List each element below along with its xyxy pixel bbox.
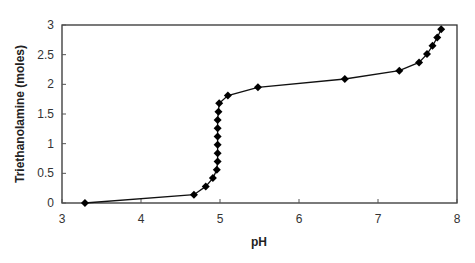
x-tick-label: 4 bbox=[138, 212, 145, 226]
x-tick-label: 8 bbox=[454, 212, 461, 226]
y-tick-label: 1 bbox=[47, 137, 54, 151]
y-tick-label: 2 bbox=[47, 77, 54, 91]
titration-chart: 345678 00.511.522.53 pH Triethanolamine … bbox=[0, 0, 475, 263]
y-tick-label: 1.5 bbox=[37, 107, 54, 121]
x-tick-label: 6 bbox=[296, 212, 303, 226]
x-tick-label: 7 bbox=[375, 212, 382, 226]
plot-area bbox=[62, 25, 457, 203]
x-tick-label: 5 bbox=[217, 212, 224, 226]
y-tick-label: 0 bbox=[47, 196, 54, 210]
y-tick-label: 2.5 bbox=[37, 48, 54, 62]
x-axis-title: pH bbox=[251, 235, 267, 249]
y-axis-title: Triethanolamine (moles) bbox=[13, 45, 27, 183]
x-tick-label: 3 bbox=[59, 212, 66, 226]
y-tick-label: 3 bbox=[47, 18, 54, 32]
y-tick-label: 0.5 bbox=[37, 166, 54, 180]
